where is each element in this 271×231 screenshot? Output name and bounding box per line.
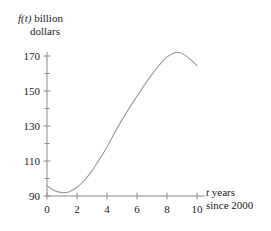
data-curve	[47, 52, 197, 192]
plot-area	[0, 0, 271, 231]
chart-figure: f(t) billion dollars t years since 2000 …	[0, 0, 271, 231]
tick-marks	[44, 56, 198, 200]
axis-lines	[47, 52, 205, 196]
